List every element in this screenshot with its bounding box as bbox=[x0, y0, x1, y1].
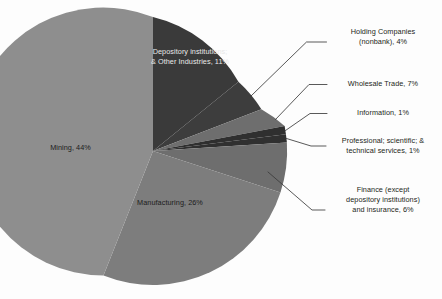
pie-label-manufacturing: Manufacturing, 26% bbox=[105, 198, 235, 208]
leader-line-information bbox=[286, 114, 328, 131]
leader-line-holding-companies bbox=[251, 42, 327, 97]
pie-label-depository-institutions: Depository institutions; & Other Industr… bbox=[120, 47, 260, 67]
pie-label-finance-insurance: Finance (except depository institutions)… bbox=[324, 185, 442, 216]
pie-label-professional-services: Professional; scientific; & technical se… bbox=[324, 136, 442, 156]
pie-label-holding-companies: Holding Companies (nonbank), 4% bbox=[327, 27, 439, 47]
pie-label-wholesale-trade: Wholesale Trade, 7% bbox=[327, 79, 439, 89]
leader-line-professional-services bbox=[287, 139, 327, 147]
pie-label-mining: Mining, 44% bbox=[18, 143, 123, 153]
pie-label-information: Information, 1% bbox=[327, 108, 439, 118]
pie-chart-figure: Depository institutions; & Other Industr… bbox=[0, 0, 442, 299]
leader-line-wholesale-trade bbox=[276, 85, 328, 120]
